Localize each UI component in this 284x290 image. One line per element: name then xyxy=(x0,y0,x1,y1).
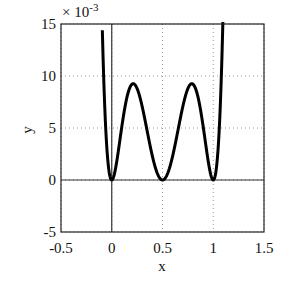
x-tick-label: 0 xyxy=(108,240,116,256)
x-tick-label: 0.5 xyxy=(153,240,172,256)
chart: -0.500.511.5 -5051015 x y × 10-3 xyxy=(0,0,284,290)
y-axis-label: y xyxy=(19,126,35,134)
x-axis-label: x xyxy=(158,258,166,274)
grid xyxy=(61,24,264,232)
x-tick-label: 1 xyxy=(210,240,218,256)
y-tick-label: 5 xyxy=(49,120,57,136)
y-tick-label: 15 xyxy=(41,16,56,32)
y-tick-label: 10 xyxy=(41,68,56,84)
y-tick-label: 0 xyxy=(49,172,57,188)
x-tick-labels: -0.500.511.5 xyxy=(49,240,273,256)
x-tick-label: -0.5 xyxy=(49,240,73,256)
x-tick-label: 1.5 xyxy=(255,240,274,256)
y-tick-labels: -5051015 xyxy=(41,16,56,240)
y-tick-label: -5 xyxy=(44,224,57,240)
y-multiplier: × 10-3 xyxy=(62,1,99,20)
